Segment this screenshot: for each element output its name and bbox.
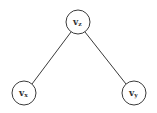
node-vx: vx: [12, 81, 36, 105]
node-vx-subscript: x: [24, 91, 28, 98]
edge-vz-vy: [85, 32, 126, 84]
edge-vz-vx: [32, 32, 71, 84]
node-vy-subscript: y: [133, 91, 138, 99]
tree-diagram: vz vx vy: [0, 0, 157, 113]
node-vy: vy: [122, 81, 146, 105]
node-vz-subscript: z: [78, 20, 82, 27]
node-vz: vz: [66, 10, 90, 34]
